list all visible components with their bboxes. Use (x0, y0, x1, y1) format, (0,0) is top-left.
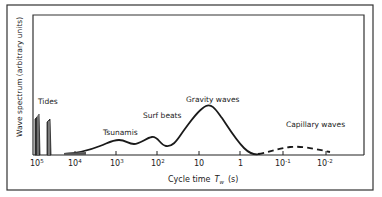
tick-label-1e2: 102 (151, 158, 165, 168)
annotation-tides: Tides (37, 97, 58, 106)
annotation-gravity-waves: Gravity waves (186, 95, 240, 104)
annotation-capillary-waves: Capillary waves (286, 120, 345, 129)
tick-label-1e5: 105 (30, 158, 44, 168)
tick-label-1e-2: 10-2 (317, 158, 333, 168)
tick-label-1e4: 104 (68, 158, 82, 168)
tick-label-10: 10 (194, 159, 204, 168)
annotation-surf-beats: Surf beats (143, 111, 182, 120)
tides-spikes (35, 114, 51, 155)
y-axis-label: Wave spectrum (arbitrary units) (15, 17, 24, 137)
x-axis-label: Cycle timeTw(s) (168, 175, 238, 185)
tick-label-1e-1: 10-1 (275, 158, 291, 168)
tick-label-1e3: 103 (110, 158, 124, 168)
spectrum-curve-dashed (258, 147, 330, 154)
x-tick-labels: 105 104 103 102 10 1 10-1 10-2 (30, 158, 333, 168)
plot-frame (33, 15, 364, 155)
annotation-tsunamis: Tsunamis (102, 128, 138, 137)
wave-spectrum-figure: Wave spectrum (arbitrary units) 105 104 … (0, 0, 382, 197)
tick-label-1: 1 (238, 159, 243, 168)
